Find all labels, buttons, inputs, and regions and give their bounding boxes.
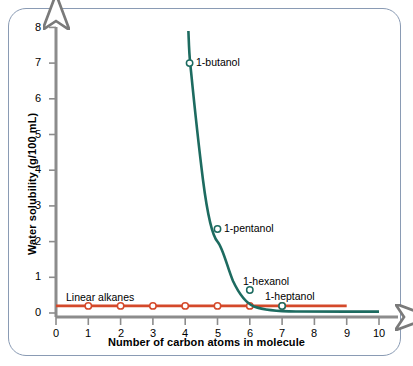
annotation-hexanol: 1-hexanol — [243, 275, 289, 287]
annotation-linear-alkanes: Linear alkanes — [66, 291, 134, 303]
annotation-heptanol: 1-heptanol — [265, 290, 315, 302]
annotation-butanol: 1-butanol — [196, 56, 240, 68]
x-axis-title: Number of carbon atoms in molecule — [0, 336, 413, 348]
annotation-pentanol: 1-pentanol — [224, 222, 274, 234]
solubility-chart — [0, 0, 413, 366]
y-tick-label-6: 6 — [32, 92, 44, 104]
y-tick-label-1: 1 — [32, 270, 44, 282]
y-tick-label-7: 7 — [32, 56, 44, 68]
y-tick-label-8: 8 — [32, 21, 44, 33]
y-axis-title: Water solubility (g/100 mL) — [26, 113, 38, 255]
series-alcohols-markers — [186, 60, 285, 309]
y-tick-label-0: 0 — [32, 306, 44, 318]
series-alcohols-curve — [188, 31, 379, 312]
